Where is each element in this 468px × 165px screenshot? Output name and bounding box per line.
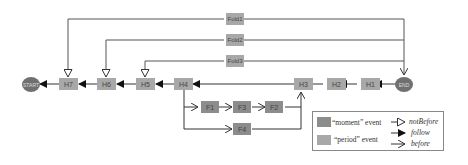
end-node: END <box>395 77 413 92</box>
node-fold3: Fold3 <box>226 55 244 67</box>
node-f1: F1 <box>201 101 219 113</box>
node-h7: H7 <box>59 78 78 90</box>
node-h5: H5 <box>136 78 155 90</box>
node-h3: H3 <box>294 78 313 90</box>
node-fold2: Fold2 <box>226 34 244 46</box>
node-h4: H4 <box>174 78 193 90</box>
node-f3: F3 <box>233 101 251 113</box>
node-f4: F4 <box>233 123 251 135</box>
node-fold1: Fold1 <box>226 13 244 25</box>
node-h6: H6 <box>97 78 116 90</box>
legend: “moment” event “period” event notBefore … <box>312 111 444 151</box>
node-h2: H2 <box>327 78 346 90</box>
node-h1: H1 <box>361 78 380 90</box>
start-node: START <box>22 77 40 92</box>
not-before-label: notBefore <box>409 117 438 126</box>
before-label: before <box>411 139 430 148</box>
follow-label: follow <box>411 128 430 137</box>
node-f2: F2 <box>265 101 283 113</box>
